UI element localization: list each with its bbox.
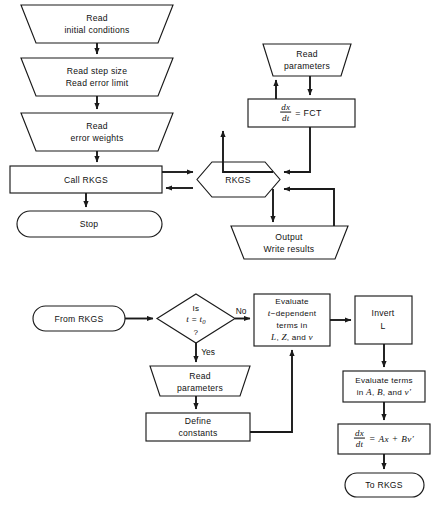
edge-fct-to-rkgs: [284, 127, 310, 172]
node-dxdt-fct: [248, 99, 355, 127]
node-read-parameters-bottom: [150, 366, 250, 396]
node-dxdt-ax-bv: [338, 424, 430, 454]
node-call-rkgs: [10, 166, 162, 193]
node-rkgs: [197, 162, 280, 197]
flowchart-canvas: [0, 0, 435, 509]
node-read-initial-conditions: [21, 5, 173, 43]
edge-label-no: No: [236, 306, 247, 316]
edge-label-yes: Yes: [201, 347, 215, 357]
node-read-step-size: [21, 58, 173, 96]
node-to-rkgs: [345, 473, 424, 497]
node-stop: [17, 211, 162, 237]
node-read-parameters: [263, 44, 351, 76]
edge-define-to-evaluate: [250, 350, 292, 432]
node-evaluate-terms-abv: [343, 371, 425, 402]
node-evaluate-t-dependent: [254, 294, 330, 346]
node-invert-l: [355, 296, 412, 344]
flowchart-diagram: Read initial conditions Read step size R…: [0, 0, 435, 509]
node-output-write-results: [231, 226, 348, 259]
node-from-rkgs: [33, 306, 125, 331]
node-read-error-weights: [21, 113, 173, 151]
edge-output-to-rkgs: [284, 189, 334, 226]
node-define-constants: [146, 413, 250, 441]
node-decision-t-equals-t0: [157, 294, 235, 343]
